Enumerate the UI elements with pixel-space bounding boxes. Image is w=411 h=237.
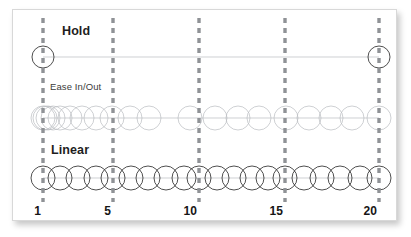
figure-card [12,9,397,221]
row-label-linear: Linear [51,143,89,157]
row-label-ease-in-out: Ease In/Out [50,81,101,92]
axis-tick-label-10: 10 [183,204,197,218]
axis-tick-label-5: 5 [104,204,111,218]
figure-canvas: Hold Ease In/Out Linear 15101520 [0,0,411,237]
axis-tick-label-15: 15 [269,204,283,218]
axis-tick-label-1: 1 [34,204,41,218]
axis-tick-label-20: 20 [363,204,377,218]
row-label-hold: Hold [62,24,90,38]
